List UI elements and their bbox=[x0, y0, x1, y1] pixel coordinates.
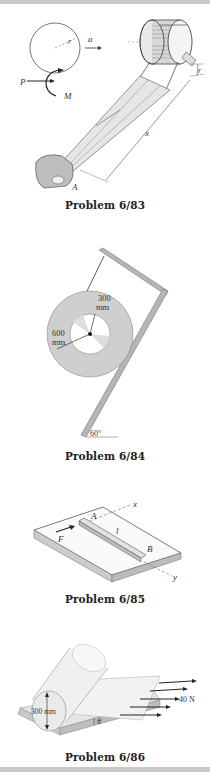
caption-6-83: Problem 6/83 bbox=[0, 199, 210, 211]
force-label: 40 N bbox=[179, 695, 195, 704]
force-f-label: F bbox=[57, 534, 64, 544]
accel-label: a bbox=[88, 34, 93, 44]
point-a-label: A bbox=[90, 511, 97, 521]
figure-6-84: 300 mm 600 mm 60° bbox=[0, 245, 210, 445]
bottom-border bbox=[0, 767, 210, 772]
force-p-label: P bbox=[19, 77, 26, 87]
figure-6-86: 300 mm 40 N θ bbox=[0, 630, 210, 750]
caption-6-85: Problem 6/85 bbox=[0, 593, 210, 605]
inner-radius-unit: mm bbox=[96, 302, 110, 312]
axis-x-label: x bbox=[132, 500, 137, 509]
figure-6-85: x y A l B F bbox=[0, 500, 210, 590]
drum-radius-label: r bbox=[198, 66, 202, 75]
point-b-label: B bbox=[147, 544, 153, 554]
angle-theta-label: θ bbox=[97, 717, 101, 726]
distance-x-label: x bbox=[144, 128, 149, 138]
outer-radius-unit: mm bbox=[52, 337, 66, 347]
angle-label: 60° bbox=[90, 429, 101, 438]
moment-label: M bbox=[63, 91, 72, 101]
diameter-label: 300 mm bbox=[31, 707, 56, 716]
caption-6-84: Problem 6/84 bbox=[0, 450, 210, 462]
caption-6-86: Problem 6/86 bbox=[0, 751, 210, 763]
figure-6-83: r a P M r A x bbox=[0, 4, 210, 194]
radius-label: r bbox=[68, 37, 72, 46]
point-a-label: A bbox=[71, 182, 78, 192]
axis-y-label: y bbox=[172, 572, 177, 582]
